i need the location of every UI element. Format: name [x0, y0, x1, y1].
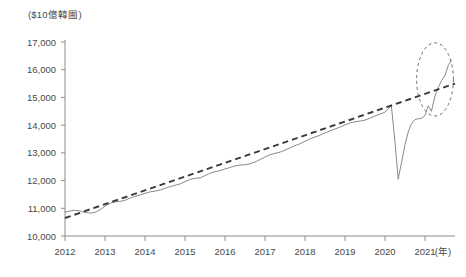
x-tick-label: 2012 [54, 246, 75, 257]
x-tick-label: 2013 [94, 246, 115, 257]
x-tick-label: 2017 [254, 246, 275, 257]
series-group [65, 60, 455, 218]
y-tick-label: 16,000 [27, 64, 56, 75]
recovery-highlight [417, 43, 454, 116]
x-tick-label: 2020 [374, 246, 395, 257]
x-tick-label: 2021 [414, 246, 435, 257]
y-tick-label: 10,000 [27, 231, 56, 242]
annotation-group [417, 43, 454, 116]
x-axis-group: 2012201320142015201620172018201920202021… [54, 236, 455, 257]
x-tick-label: 2015 [174, 246, 195, 257]
y-tick-label: 15,000 [27, 92, 56, 103]
series-trend [65, 84, 455, 218]
y-tick-label: 12,000 [27, 175, 56, 186]
y-tick-label: 14,000 [27, 120, 56, 131]
y-axis-group: 10,00011,00012,00013,00014,00015,00016,0… [27, 37, 65, 242]
series-actual [65, 60, 451, 213]
y-tick-label: 11,000 [28, 203, 56, 214]
chart-plot-area: 10,00011,00012,00013,00014,00015,00016,0… [0, 0, 466, 277]
x-tick-label: 2014 [134, 246, 155, 257]
y-tick-label: 17,000 [27, 37, 56, 48]
x-tick-label: 2019 [334, 246, 355, 257]
y-tick-label: 13,000 [27, 147, 56, 158]
x-tick-label: 2018 [294, 246, 315, 257]
chart-container: ($10億韓圌) 10,00011,00012,00013,00014,0001… [0, 0, 466, 277]
x-axis-unit-label: (年) [435, 246, 451, 257]
x-tick-label: 2016 [214, 246, 235, 257]
